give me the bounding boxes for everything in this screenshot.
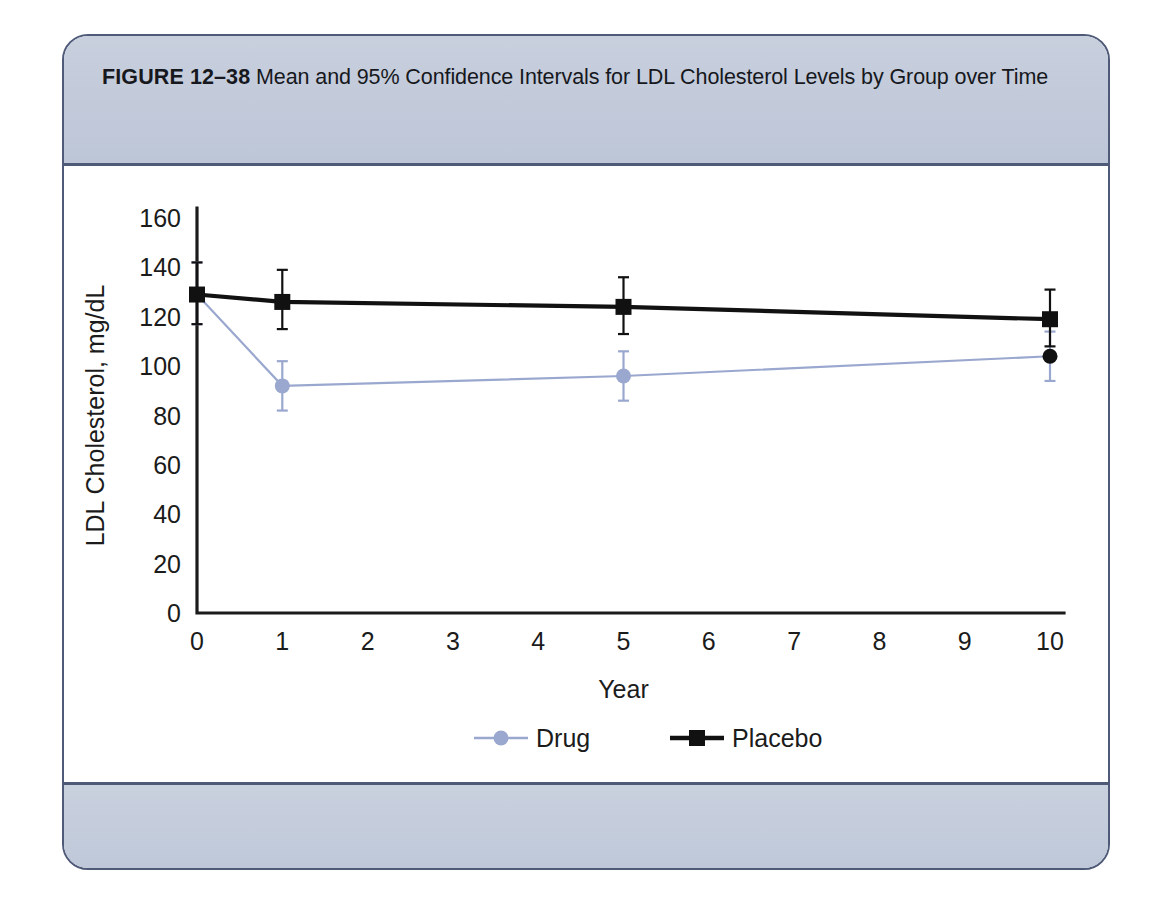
y-tick-label: 120 xyxy=(139,303,181,331)
y-axis-title: LDL Cholesterol, mg/dL xyxy=(81,285,109,547)
series-placebo xyxy=(189,262,1058,346)
data-point-marker xyxy=(275,378,290,393)
data-point-marker xyxy=(1042,311,1058,327)
ldl-cholesterol-line-chart: 020406080100120140160012345678910YearLDL… xyxy=(64,166,1108,783)
x-tick-label: 8 xyxy=(872,627,886,655)
x-tick-label: 7 xyxy=(787,627,801,655)
legend-label: Drug xyxy=(536,724,590,752)
y-tick-label: 20 xyxy=(153,550,181,578)
y-tick-label: 60 xyxy=(153,451,181,479)
legend-label: Placebo xyxy=(732,724,822,752)
x-tick-label: 10 xyxy=(1036,627,1064,655)
x-tick-label: 3 xyxy=(446,627,460,655)
figure-number: FIGURE 12–38 xyxy=(102,65,250,89)
figure-caption-band: FIGURE 12–38 Mean and 95% Confidence Int… xyxy=(64,36,1108,166)
legend-item-placebo: Placebo xyxy=(670,724,822,752)
y-tick-label: 40 xyxy=(153,500,181,528)
data-point-marker xyxy=(189,287,205,303)
data-point-marker xyxy=(274,294,290,310)
legend-item-drug: Drug xyxy=(474,724,590,752)
x-tick-label: 0 xyxy=(190,627,204,655)
data-point-marker xyxy=(1043,349,1058,364)
x-tick-label: 4 xyxy=(531,627,545,655)
x-tick-label: 1 xyxy=(275,627,289,655)
y-tick-label: 0 xyxy=(167,599,181,627)
data-point-marker xyxy=(616,369,631,384)
y-tick-label: 140 xyxy=(139,253,181,281)
x-axis-title: Year xyxy=(598,675,649,703)
y-tick-label: 160 xyxy=(139,204,181,232)
y-tick-label: 80 xyxy=(153,402,181,430)
legend-marker xyxy=(494,731,509,746)
figure-caption: FIGURE 12–38 Mean and 95% Confidence Int… xyxy=(102,63,1072,93)
data-point-marker xyxy=(616,299,632,315)
x-tick-label: 2 xyxy=(361,627,375,655)
y-tick-label: 100 xyxy=(139,352,181,380)
plot-panel: 020406080100120140160012345678910YearLDL… xyxy=(64,166,1108,782)
x-tick-label: 6 xyxy=(702,627,716,655)
x-tick-label: 9 xyxy=(958,627,972,655)
chart-axes xyxy=(197,208,1064,613)
figure-caption-text: Mean and 95% Confidence Intervals for LD… xyxy=(256,65,1048,89)
figure-frame: FIGURE 12–38 Mean and 95% Confidence Int… xyxy=(62,34,1110,870)
legend-marker xyxy=(689,730,705,746)
x-tick-label: 5 xyxy=(617,627,631,655)
figure-bottom-band xyxy=(64,782,1108,868)
